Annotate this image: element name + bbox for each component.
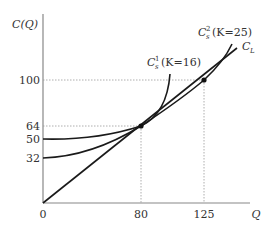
y-axis-label: C(Q) [12,18,38,31]
label-short-run-k25: C 2 s (K=25) [198,25,252,41]
cs2-sup: 2 [206,25,210,33]
x-tick-125: 125 [194,208,215,221]
x-tick-0: 0 [40,208,47,221]
x-axis-label: Q [251,208,260,221]
y-tick-32: 32 [26,152,40,165]
y-tick-100: 100 [19,74,40,87]
cs2-sub: s [206,33,210,41]
short-run-cost-curve-k16 [43,74,170,139]
cs1-sup: 1 [155,55,159,63]
cl-sub: L [249,47,255,55]
cs1-sub: s [155,63,159,71]
x-tick-80: 80 [134,208,148,221]
cost-curves-chart: C(Q) 100 64 50 32 0 80 125 Q C L C 1 s (… [0,0,278,232]
label-short-run-k16: C 1 s (K=16) [147,55,201,71]
tangent-point-125-100 [201,77,206,82]
label-long-run-cost: C L [242,40,255,55]
tangent-point-80-64 [138,123,143,128]
cs1-param: (K=16) [161,56,201,69]
y-tick-50: 50 [26,133,40,146]
y-tick-64: 64 [26,120,40,133]
cs2-param: (K=25) [212,26,252,39]
